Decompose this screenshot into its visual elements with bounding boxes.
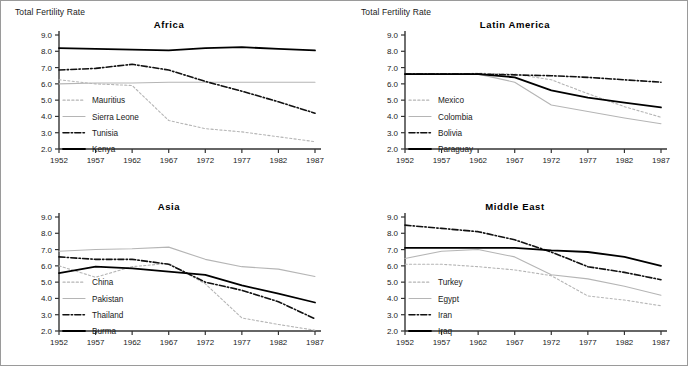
panel-latin-america: Total Fertility RateLatin America2.03.04… [353, 5, 677, 180]
x-tick-label: 1987 [652, 338, 670, 347]
x-tick-label: 1972 [542, 338, 560, 347]
y-tick-label: 3.0 [41, 129, 53, 138]
y-tick-label: 4.0 [41, 294, 53, 303]
legend-label-china: China [92, 278, 114, 287]
x-tick-label: 1987 [306, 338, 324, 347]
y-tick-label: 9.0 [387, 213, 399, 222]
y-tick-label: 3.0 [41, 311, 53, 320]
x-tick-label: 1977 [579, 338, 597, 347]
x-tick-label: 1982 [616, 156, 634, 165]
y-tick-label: 5.0 [387, 278, 399, 287]
x-tick-label: 1962 [469, 156, 487, 165]
x-tick-label: 1967 [160, 338, 178, 347]
x-tick-label: 1977 [579, 156, 597, 165]
legend-label-egypt: Egypt [438, 295, 460, 304]
series-line-bolivia [405, 74, 661, 82]
legend-label-paraguay: Paraguay [438, 145, 474, 154]
legend-label-turkey: Turkey [438, 278, 464, 287]
x-tick-label: 1962 [123, 156, 141, 165]
legend-label-iraq: Iraq [438, 327, 453, 336]
x-tick-label: 1987 [306, 156, 324, 165]
legend-label-mexico: Mexico [438, 96, 464, 105]
y-tick-label: 6.0 [41, 262, 53, 271]
x-tick-label: 1982 [270, 156, 288, 165]
y-tick-label: 9.0 [41, 31, 53, 40]
x-tick-label: 1972 [196, 338, 214, 347]
x-tick-label: 1977 [233, 156, 251, 165]
legend-label-iran: Iran [438, 311, 453, 320]
panel-middle-east: Middle East2.03.04.05.06.07.08.09.019521… [353, 187, 677, 362]
y-tick-label: 9.0 [41, 213, 53, 222]
y-tick-label: 7.0 [387, 64, 399, 73]
x-tick-label: 1982 [616, 338, 634, 347]
y-tick-label: 4.0 [387, 294, 399, 303]
y-tick-label: 7.0 [387, 246, 399, 255]
y-tick-label: 5.0 [41, 96, 53, 105]
series-line-kenya [59, 47, 315, 50]
y-tick-label: 4.0 [387, 112, 399, 121]
x-tick-label: 1972 [542, 156, 560, 165]
x-tick-label: 1977 [233, 338, 251, 347]
x-tick-label: 1967 [506, 156, 524, 165]
x-tick-label: 1957 [433, 156, 451, 165]
y-tick-label: 8.0 [41, 47, 53, 56]
y-tick-label: 2.0 [41, 145, 53, 154]
series-line-pakistan [59, 247, 315, 276]
x-tick-label: 1952 [50, 156, 68, 165]
y-tick-label: 3.0 [387, 129, 399, 138]
y-tick-label: 2.0 [387, 145, 399, 154]
x-tick-label: 1952 [396, 338, 414, 347]
x-tick-label: 1962 [123, 338, 141, 347]
figure-frame: Total Fertility RateAfrica2.03.04.05.06.… [0, 0, 688, 366]
y-tick-label: 3.0 [387, 311, 399, 320]
x-tick-label: 1952 [50, 338, 68, 347]
x-tick-label: 1967 [160, 156, 178, 165]
y-tick-label: 6.0 [387, 262, 399, 271]
y-tick-label: 8.0 [387, 47, 399, 56]
legend-label-pakistan: Pakistan [92, 295, 124, 304]
x-tick-label: 1972 [196, 156, 214, 165]
legend-label-thailand: Thailand [92, 311, 124, 320]
legend-label-burma: Burma [92, 327, 117, 336]
x-tick-label: 1982 [270, 338, 288, 347]
x-tick-label: 1957 [433, 338, 451, 347]
series-line-tunisia [59, 64, 315, 113]
panel-africa: Total Fertility RateAfrica2.03.04.05.06.… [7, 5, 331, 180]
x-tick-label: 1962 [469, 338, 487, 347]
x-tick-label: 1957 [87, 156, 105, 165]
y-tick-label: 4.0 [41, 112, 53, 121]
legend-label-sierra-leone: Sierra Leone [92, 113, 139, 122]
y-tick-label: 2.0 [387, 327, 399, 336]
legend-label-bolivia: Bolivia [438, 129, 463, 138]
x-tick-label: 1952 [396, 156, 414, 165]
legend-label-kenya: Kenya [92, 145, 116, 154]
y-tick-label: 6.0 [387, 80, 399, 89]
y-tick-label: 8.0 [387, 229, 399, 238]
legend-label-colombia: Colombia [438, 113, 473, 122]
y-tick-label: 9.0 [387, 31, 399, 40]
y-tick-label: 7.0 [41, 246, 53, 255]
series-line-sierra-leone [59, 82, 315, 84]
plot-area: 2.03.04.05.06.07.08.09.01952195719621967… [353, 187, 677, 362]
x-tick-label: 1987 [652, 156, 670, 165]
y-tick-label: 7.0 [41, 64, 53, 73]
series-line-iran [405, 225, 661, 280]
panel-asia: Asia2.03.04.05.06.07.08.09.0195219571962… [7, 187, 331, 362]
legend-label-mauritius: Mauritius [92, 96, 125, 105]
plot-area: 2.03.04.05.06.07.08.09.01952195719621967… [7, 5, 331, 180]
x-tick-label: 1967 [506, 338, 524, 347]
x-tick-label: 1957 [87, 338, 105, 347]
plot-area: 2.03.04.05.06.07.08.09.01952195719621967… [353, 5, 677, 180]
y-tick-label: 5.0 [387, 96, 399, 105]
y-tick-label: 6.0 [41, 80, 53, 89]
y-tick-label: 5.0 [41, 278, 53, 287]
plot-area: 2.03.04.05.06.07.08.09.01952195719621967… [7, 187, 331, 362]
legend-label-tunisia: Tunisia [92, 129, 119, 138]
y-tick-label: 2.0 [41, 327, 53, 336]
y-tick-label: 8.0 [41, 229, 53, 238]
